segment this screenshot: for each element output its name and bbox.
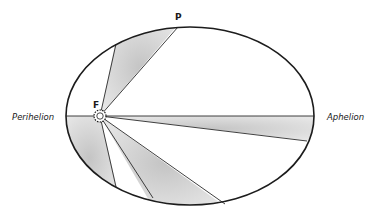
planet-label: P (175, 12, 182, 22)
aphelion-label: Aphelion (326, 112, 364, 122)
kepler-orbit-diagram: F P Perihelion Aphelion (0, 0, 376, 216)
sun-icon (94, 110, 106, 122)
perihelion-label: Perihelion (12, 112, 54, 122)
focus-label: F (93, 100, 99, 110)
